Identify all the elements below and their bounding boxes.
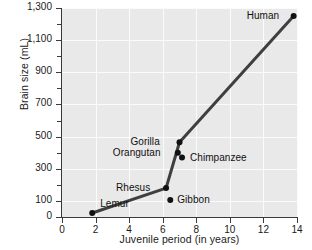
gridline-horizontal bbox=[62, 72, 297, 73]
x-axis-title: Juvenile period (in years) bbox=[62, 233, 297, 245]
y-axis-minor-tick bbox=[57, 153, 61, 154]
y-axis-tick-label: 900 bbox=[8, 65, 52, 76]
y-axis-tick bbox=[56, 201, 61, 202]
y-axis-tick bbox=[56, 8, 61, 9]
data-point-label: Gibbon bbox=[177, 194, 210, 205]
data-point-label: Orangutan bbox=[113, 147, 161, 158]
y-axis-tick-label: 0 bbox=[8, 210, 52, 221]
gridline-horizontal bbox=[62, 104, 297, 105]
y-axis-tick bbox=[56, 104, 61, 105]
y-axis-tick-label: 700 bbox=[8, 97, 52, 108]
data-point-label: Rhesus bbox=[116, 182, 150, 193]
y-axis-tick bbox=[56, 169, 61, 170]
x-axis-tick bbox=[263, 218, 264, 223]
y-axis-minor-tick bbox=[57, 56, 61, 57]
y-axis-minor-tick bbox=[57, 88, 61, 89]
x-axis-tick bbox=[230, 218, 231, 223]
data-point-label: Chimpanzee bbox=[190, 152, 247, 163]
gridline-horizontal bbox=[62, 137, 297, 138]
x-axis-tick bbox=[129, 218, 130, 223]
x-axis-tick bbox=[297, 218, 298, 223]
x-axis-tick bbox=[196, 218, 197, 223]
y-axis-tick bbox=[56, 137, 61, 138]
y-axis-minor-tick bbox=[57, 24, 61, 25]
y-axis-tick-label: 1,100 bbox=[8, 33, 52, 44]
plot-area bbox=[62, 8, 297, 217]
x-axis-tick bbox=[96, 218, 97, 223]
gridline-vertical bbox=[297, 8, 298, 217]
x-axis-tick bbox=[163, 218, 164, 223]
y-axis-tick bbox=[56, 217, 61, 218]
data-point-label: Human bbox=[247, 10, 280, 21]
data-point-label: Lemur bbox=[100, 198, 129, 209]
y-axis-spine bbox=[61, 8, 62, 218]
y-axis-tick bbox=[56, 72, 61, 73]
chart-figure: Brain size (mL) 01003005007009001,1001,3… bbox=[0, 0, 312, 250]
gridline-horizontal bbox=[62, 40, 297, 41]
data-point-label: Gorilla bbox=[131, 136, 160, 147]
y-axis-tick-label: 100 bbox=[8, 194, 52, 205]
gridline-horizontal bbox=[62, 169, 297, 170]
y-axis-tick-label: 300 bbox=[8, 162, 52, 173]
gridline-horizontal bbox=[62, 8, 297, 9]
y-axis-tick-label: 1,300 bbox=[8, 1, 52, 12]
y-axis-minor-tick bbox=[57, 185, 61, 186]
y-axis-tick-label: 500 bbox=[8, 130, 52, 141]
x-axis-tick bbox=[62, 218, 63, 223]
y-axis-tick bbox=[56, 40, 61, 41]
y-axis-minor-tick bbox=[57, 121, 61, 122]
